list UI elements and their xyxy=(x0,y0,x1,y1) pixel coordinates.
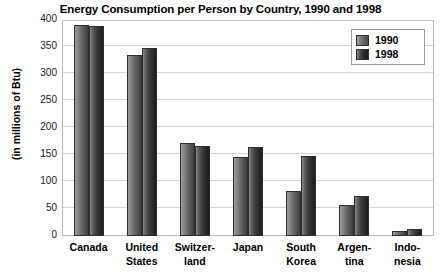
legend-swatch-icon xyxy=(356,49,369,60)
y-axis-tick-label: 0 xyxy=(25,229,57,240)
legend-swatch-icon xyxy=(356,35,369,46)
legend-item: 1998 xyxy=(356,47,420,61)
x-axis-tick-label: SouthKorea xyxy=(275,240,328,268)
x-axis-tick-label-line: Canada xyxy=(62,240,115,254)
y-axis-tick-label: 200 xyxy=(25,121,57,132)
y-axis-tick-label: 150 xyxy=(25,148,57,159)
bar-group xyxy=(233,20,263,236)
x-axis-tick-label-line: tina xyxy=(328,254,381,268)
x-axis-tick-label: Argen-tina xyxy=(328,240,381,268)
bar xyxy=(127,55,142,236)
legend-item: 1990 xyxy=(356,33,420,47)
x-axis-tick-label-line: Indo- xyxy=(381,240,434,254)
chart-legend: 19901998 xyxy=(351,29,425,65)
y-axis-tick-label: 100 xyxy=(25,175,57,186)
x-axis-tick-label: Indo-nesia xyxy=(381,240,434,268)
chart-title: Energy Consumption per Person by Country… xyxy=(0,3,441,15)
x-axis-tick-label: Canada xyxy=(62,240,115,254)
bar xyxy=(142,48,157,236)
bar xyxy=(339,205,354,236)
y-axis-title: (in millions of Btu) xyxy=(10,29,22,199)
bar-chart: Energy Consumption per Person by Country… xyxy=(0,0,441,279)
x-axis-tick-label-line: Argen- xyxy=(328,240,381,254)
x-axis-tick-label-line: South xyxy=(275,240,328,254)
x-axis-tick-label-line: States xyxy=(115,254,168,268)
x-axis-tick-label: Japan xyxy=(221,240,274,254)
bar-group xyxy=(180,20,210,236)
bar-group xyxy=(286,20,316,236)
bar-group xyxy=(74,20,104,236)
bar xyxy=(195,146,210,236)
y-axis-tick-label: 50 xyxy=(25,202,57,213)
bar xyxy=(89,26,104,236)
bar xyxy=(248,147,263,236)
x-axis-tick-label-line: nesia xyxy=(381,254,434,268)
y-axis-tick-label: 250 xyxy=(25,94,57,105)
bar xyxy=(74,25,89,236)
x-axis-tick-label-line: Korea xyxy=(275,254,328,268)
x-axis-tick-label-line: Switzer- xyxy=(168,240,221,254)
bar xyxy=(354,196,369,237)
y-axis-tick-label: 300 xyxy=(25,67,57,78)
x-axis-tick-label: UnitedStates xyxy=(115,240,168,268)
bar xyxy=(233,157,248,236)
x-axis-tick-label: Switzer-land xyxy=(168,240,221,268)
y-axis-tick-label: 350 xyxy=(25,40,57,51)
bar xyxy=(180,143,195,236)
legend-label: 1990 xyxy=(375,34,398,46)
y-axis-tick-label: 400 xyxy=(25,13,57,24)
bar xyxy=(392,231,407,236)
bar xyxy=(301,156,316,236)
x-axis-tick-label-line: United xyxy=(115,240,168,254)
x-axis-tick-label-line: land xyxy=(168,254,221,268)
bar xyxy=(286,191,301,236)
legend-label: 1998 xyxy=(375,48,398,60)
x-axis-tick-label-line: Japan xyxy=(221,240,274,254)
bar-group xyxy=(127,20,157,236)
bar xyxy=(407,229,422,236)
